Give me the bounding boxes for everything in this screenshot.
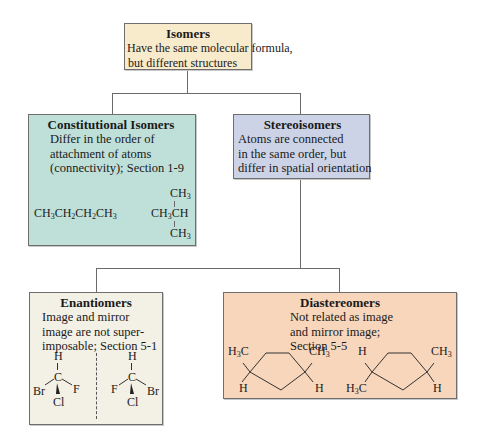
connector-stereo-down	[300, 178, 301, 268]
dia-left-h-bottom-right: H	[315, 382, 324, 395]
enant-left-f: F	[73, 383, 80, 396]
constitutional-desc-line-2: attachment of atoms	[37, 147, 189, 162]
dia-right-h-top: H	[358, 345, 367, 358]
stereoisomers-node: Stereoisomers Atoms are connected in the…	[233, 114, 370, 179]
connector-to-stereo	[300, 93, 301, 114]
enant-right-f: F	[111, 383, 118, 396]
enant-left-c: C	[54, 371, 62, 384]
enant-right-bonds	[30, 293, 170, 353]
isomers-desc-line-2: but different structures	[128, 56, 248, 71]
dia-left-h-bottom: H	[239, 382, 248, 395]
isobutane-bottom-ch3: CH3	[170, 227, 191, 240]
dia-right-ch3-top: CH3	[431, 345, 452, 358]
isobutane-top-ch3: CH3	[170, 187, 191, 200]
cyclopentane-rings	[224, 293, 458, 400]
constitutional-desc-line-3: (connectivity); Section 1-9	[37, 161, 189, 176]
isomers-title: Isomers	[128, 26, 248, 41]
mirror-plane	[96, 353, 97, 419]
constitutional-title: Constitutional Isomers	[33, 117, 189, 132]
connector-isomers-down	[187, 69, 188, 93]
butane-formula: CH3CH2CH2CH3	[34, 207, 117, 220]
enant-left-cl: Cl	[53, 396, 64, 409]
enant-left-br: Br	[33, 385, 45, 398]
dia-left-h3c-top: H3C	[228, 345, 249, 358]
stereo-title: Stereoisomers	[238, 117, 367, 132]
enant-right-cl: Cl	[127, 396, 138, 409]
connector-to-constitutional	[112, 93, 113, 114]
enantiomers-node: Enantiomers Image and mirror image are n…	[29, 292, 163, 425]
enant-right-br: Br	[147, 385, 159, 398]
enant-right-c: C	[128, 371, 136, 384]
dia-left-ch3-top: CH3	[309, 345, 330, 358]
dia-right-h3c-bottom: H3C	[346, 382, 367, 395]
stereo-desc-line-1: Atoms are connected	[238, 132, 367, 147]
isomers-node: Isomers Have the same molecular formula,…	[124, 23, 252, 70]
connector-level2-horizontal	[96, 268, 340, 269]
isobutane-middle: CH3CH	[151, 207, 188, 220]
connector-level1-horizontal	[112, 93, 301, 94]
constitutional-isomers-node: Constitutional Isomers Differ in the ord…	[28, 114, 196, 246]
isomers-desc-line-1: Have the same molecular formula,	[127, 41, 248, 56]
constitutional-desc-line-1: Differ in the order of	[37, 132, 189, 147]
connector-to-diastereomers	[339, 268, 340, 292]
diastereomers-node: Diastereomers Not related as image and m…	[223, 292, 457, 399]
stereo-desc-line-2: in the same order, but	[238, 147, 367, 162]
dia-right-h-bottom-right: H	[433, 382, 442, 395]
stereo-desc-line-3: differ in spatial orientation	[238, 161, 367, 176]
connector-to-enantiomers	[96, 268, 97, 292]
